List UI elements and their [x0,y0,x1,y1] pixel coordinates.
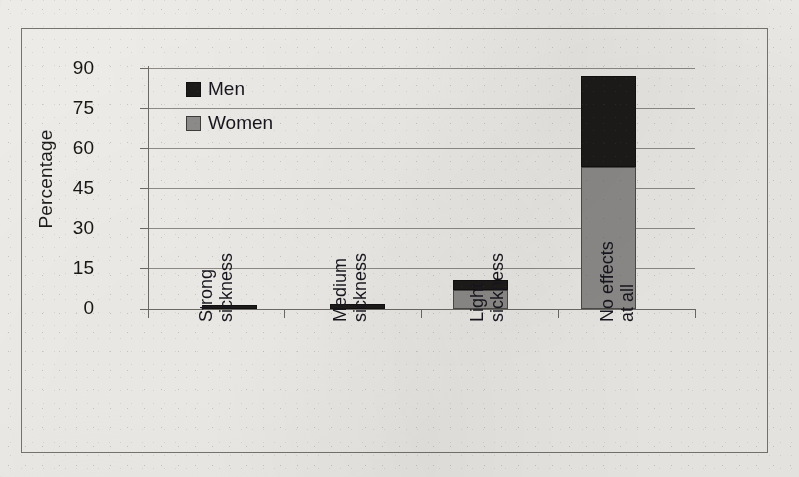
figure-border [21,28,768,453]
stacked-bar-chart: Percentage 90 75 60 45 30 15 0 Strong si… [0,0,799,477]
